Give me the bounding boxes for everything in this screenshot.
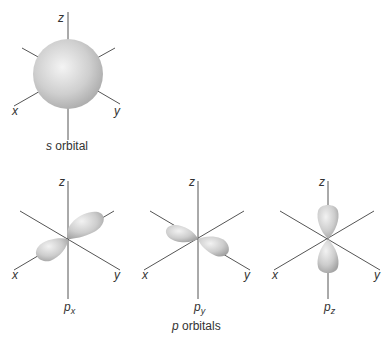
orbital-diagram: z x y s orbital z x y px z x y py z x y xyxy=(0,0,388,345)
axis-label-z: z xyxy=(318,175,325,189)
py-orbital: z x y py xyxy=(141,175,251,316)
axis-label-y: y xyxy=(373,268,381,282)
px-orbital: z x y px xyxy=(11,175,121,316)
px-lobe-positive xyxy=(67,212,104,239)
pz-orbital: z x y pz xyxy=(271,175,381,316)
axis-label-y: y xyxy=(243,268,251,282)
axis-label-y: y xyxy=(113,268,121,282)
axis-label-x: x xyxy=(141,268,149,282)
py-lobe-negative xyxy=(166,225,198,242)
axis-label-x: x xyxy=(11,104,19,118)
px-lobe-negative xyxy=(36,238,68,261)
py-label: py xyxy=(193,300,206,316)
p-orbitals-caption: p orbitals xyxy=(171,319,221,333)
pz-label: pz xyxy=(323,300,336,316)
axis-label-x: x xyxy=(271,268,279,282)
axis-label-z: z xyxy=(188,175,195,189)
s-orbital-caption: s orbital xyxy=(46,139,88,153)
py-lobe-positive xyxy=(198,237,229,257)
s-orbital-sphere xyxy=(33,39,103,109)
axis-label-y: y xyxy=(113,104,121,118)
s-orbital: z x y s orbital xyxy=(11,11,121,153)
axis-label-x: x xyxy=(11,268,19,282)
axis-label-z: z xyxy=(58,175,65,189)
axis-label-z: z xyxy=(57,11,64,25)
px-label: px xyxy=(63,300,76,316)
